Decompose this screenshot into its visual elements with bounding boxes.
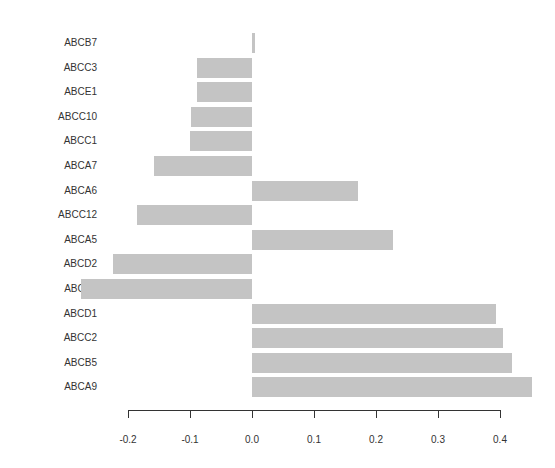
category-label: ABCA5 [27, 234, 97, 246]
category-label: ABCC2 [27, 332, 97, 344]
x-tick [128, 410, 129, 418]
x-tick-label: -0.1 [170, 434, 210, 445]
category-label: ABCE1 [27, 86, 97, 98]
bar [252, 353, 512, 373]
x-tick [314, 410, 315, 418]
category-label: ABCA6 [27, 185, 97, 197]
category-label: ABCC12 [27, 209, 97, 221]
category-label: ABCB7 [27, 37, 97, 49]
x-tick [500, 410, 501, 418]
bar [190, 131, 252, 151]
x-tick-label: 0.4 [480, 434, 520, 445]
bar-chart: ABCB7ABCC3ABCE1ABCC10ABCC1ABCA7ABCA6ABCC… [0, 0, 555, 468]
category-label: ABCA9 [27, 381, 97, 393]
bar [113, 254, 252, 274]
bar [252, 33, 255, 53]
bar [252, 304, 496, 324]
bar [252, 230, 393, 250]
x-tick [438, 410, 439, 418]
bar [252, 377, 532, 397]
bar [252, 328, 503, 348]
bar [154, 156, 252, 176]
bar [197, 82, 252, 102]
bar [252, 181, 358, 201]
x-tick-label: 0.3 [418, 434, 458, 445]
category-label: ABCD1 [27, 308, 97, 320]
category-label: ABCA7 [27, 160, 97, 172]
category-label: ABCB5 [27, 357, 97, 369]
x-tick-label: -0.2 [108, 434, 148, 445]
x-tick [190, 410, 191, 418]
bar [197, 58, 252, 78]
x-tick [252, 410, 253, 418]
x-tick-label: 0.0 [232, 434, 272, 445]
bar [137, 205, 252, 225]
bar [191, 107, 252, 127]
category-label: ABCC1 [27, 135, 97, 147]
x-tick [376, 410, 377, 418]
x-tick-label: 0.1 [294, 434, 334, 445]
category-label: ABCC10 [27, 111, 97, 123]
category-label: ABCC3 [27, 62, 97, 74]
bar [81, 279, 252, 299]
x-tick-label: 0.2 [356, 434, 396, 445]
category-label: ABCD2 [27, 258, 97, 270]
